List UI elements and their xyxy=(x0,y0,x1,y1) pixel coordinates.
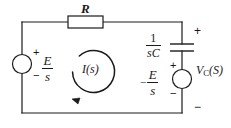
loop-current-label: I(s) xyxy=(82,63,99,75)
source-right-value-fraction: − E s xyxy=(140,68,158,97)
source-right-minus-sign: − xyxy=(170,88,176,99)
source-right-leading-minus: − xyxy=(140,77,146,88)
resistor-label: R xyxy=(81,2,90,15)
output-minus-sign: − xyxy=(194,101,201,113)
source-left-minus-sign: − xyxy=(33,70,39,81)
source-right-denominator: s xyxy=(149,84,156,97)
source-right-numerator: E xyxy=(148,68,158,81)
resistor-body xyxy=(68,16,103,28)
capacitor-impedance-fraction: 1 sC xyxy=(146,32,161,59)
capacitor-plates xyxy=(170,44,194,51)
output-plus-sign: + xyxy=(194,25,201,37)
output-voltage-argument: (S) xyxy=(209,63,223,77)
voltage-source-right-symbol xyxy=(173,70,192,89)
capacitor-denominator: sC xyxy=(146,47,161,59)
source-left-denominator: s xyxy=(44,70,51,83)
capacitor-numerator: 1 xyxy=(149,32,157,44)
output-voltage-label: VC(S) xyxy=(196,64,223,78)
voltage-source-left-symbol xyxy=(13,55,32,74)
source-left-value-fraction: E s xyxy=(42,54,53,83)
source-right-plus-sign: + xyxy=(170,60,176,71)
source-left-plus-sign: + xyxy=(33,47,39,58)
circuit-diagram-figure: R + E s − I(s) 1 sC + − E s − + VC(S) − xyxy=(0,0,231,128)
source-left-numerator: E xyxy=(43,54,53,67)
